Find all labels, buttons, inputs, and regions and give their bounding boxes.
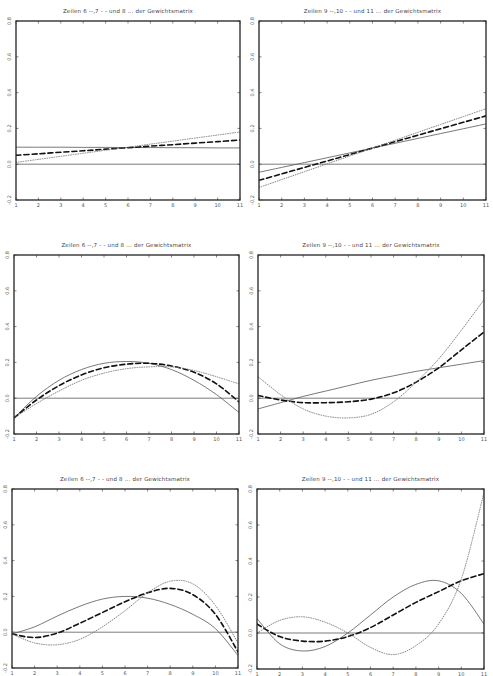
series-line-dashed <box>257 574 484 642</box>
x-tick-label: 2 <box>278 671 281 676</box>
chart-title: Zeilen 9 --,10 - - und 11 ... der Gewich… <box>302 476 440 482</box>
y-tick-label: 0.2 <box>247 593 253 601</box>
x-tick-label: 5 <box>346 671 349 676</box>
y-tick-label: -0.2 <box>247 664 253 674</box>
y-tick-label: 0.4 <box>247 557 253 565</box>
plot-frame <box>257 489 484 669</box>
x-tick-label: 9 <box>437 671 440 676</box>
y-tick-label: 0.0 <box>247 629 253 637</box>
x-tick-label: 6 <box>369 671 372 676</box>
x-tick-label: 4 <box>324 671 327 676</box>
y-tick-label: 0.8 <box>247 485 253 493</box>
chart-panel-bottom-right: 1234567891011-0.20.00.20.40.60.8 Zeilen … <box>0 0 493 676</box>
chart-plot-area: 1234567891011-0.20.00.20.40.60.8 <box>0 0 493 676</box>
x-tick-label: 8 <box>414 671 417 676</box>
x-tick-label: 1 <box>255 671 258 676</box>
x-tick-label: 3 <box>301 671 304 676</box>
x-tick-label: 10 <box>458 671 464 676</box>
x-tick-label: 11 <box>481 671 487 676</box>
series-line-dotted <box>257 493 484 655</box>
y-tick-label: 0.6 <box>247 521 253 529</box>
x-tick-label: 7 <box>392 671 395 676</box>
series-line-solid <box>257 580 484 651</box>
